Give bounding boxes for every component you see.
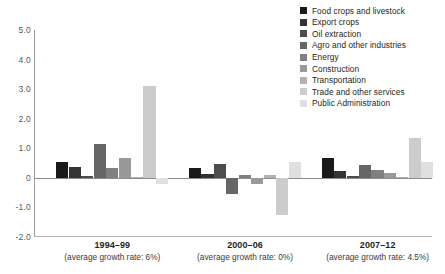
- legend-label: Agro and other industries: [312, 41, 406, 49]
- category-period: 1994–99: [42, 240, 182, 250]
- legend-label: Trade and other services: [312, 88, 405, 96]
- legend-item-construction[interactable]: Construction: [300, 63, 445, 75]
- bar[interactable]: [131, 177, 143, 178]
- legend-swatch-icon: [300, 77, 307, 84]
- bar[interactable]: [156, 178, 168, 184]
- grouped-bar-chart: 5.04.03.02.01.00-1.0-2.0 1994–99(average…: [0, 0, 445, 274]
- category-growth-rate: (average growth rate: 6%): [42, 252, 182, 262]
- legend-item-agro-and-other-industries[interactable]: Agro and other industries: [300, 40, 445, 52]
- y-axis-tick-5.0: 5.0: [1, 25, 31, 35]
- legend-swatch-icon: [300, 42, 307, 49]
- category-period: 2007–12: [308, 240, 445, 250]
- legend-item-food-crops-and-livestock[interactable]: Food crops and livestock: [300, 5, 445, 17]
- category-label-200006: 2000–06(average growth rate: 0%): [175, 240, 315, 262]
- legend-item-export-crops[interactable]: Export crops: [300, 17, 445, 29]
- legend-swatch-icon: [300, 88, 307, 95]
- y-axis-tick-n2.0: -2.0: [1, 232, 31, 242]
- legend-label: Export crops: [312, 18, 359, 26]
- bar[interactable]: [201, 174, 213, 178]
- legend-label: Energy: [312, 53, 339, 61]
- bar[interactable]: [56, 162, 68, 178]
- bar[interactable]: [251, 178, 263, 184]
- bar[interactable]: [396, 177, 408, 178]
- legend-swatch-icon: [300, 100, 307, 107]
- legend-item-public-administration[interactable]: Public Administration: [300, 98, 445, 110]
- bar[interactable]: [334, 171, 346, 178]
- legend-swatch-icon: [300, 19, 307, 26]
- bar[interactable]: [94, 144, 106, 178]
- bar[interactable]: [322, 158, 334, 178]
- bar[interactable]: [359, 165, 371, 177]
- bar[interactable]: [69, 167, 81, 178]
- bar[interactable]: [119, 158, 131, 178]
- chart-legend: Food crops and livestockExport cropsOil …: [300, 5, 445, 109]
- category-growth-rate: (average growth rate: 0%): [175, 252, 315, 262]
- legend-item-trade-and-other-services[interactable]: Trade and other services: [300, 86, 445, 98]
- y-axis-tick-labels: 5.04.03.02.01.00-1.0-2.0: [0, 30, 31, 237]
- y-axis-tick-0: 0: [1, 173, 31, 183]
- category-label-199499: 1994–99(average growth rate: 6%): [42, 240, 182, 262]
- category-growth-rate: (average growth rate: 4.5%): [308, 252, 445, 262]
- bar[interactable]: [289, 162, 301, 177]
- bar-group-200006: [189, 30, 301, 237]
- bar[interactable]: [189, 168, 201, 178]
- legend-swatch-icon: [300, 54, 307, 61]
- legend-label: Construction: [312, 65, 359, 73]
- bar[interactable]: [239, 175, 251, 177]
- legend-swatch-icon: [300, 7, 307, 14]
- bar-group-199499: [56, 30, 168, 237]
- bar[interactable]: [347, 176, 359, 177]
- legend-label: Transportation: [312, 76, 366, 84]
- bar[interactable]: [81, 176, 93, 178]
- legend-swatch-icon: [300, 65, 307, 72]
- legend-item-oil-extraction[interactable]: Oil extraction: [300, 28, 445, 40]
- bar[interactable]: [214, 164, 226, 178]
- legend-item-energy[interactable]: Energy: [300, 51, 445, 63]
- bar[interactable]: [276, 178, 288, 215]
- legend-item-transportation[interactable]: Transportation: [300, 75, 445, 87]
- bar[interactable]: [226, 178, 238, 194]
- bar[interactable]: [143, 86, 155, 178]
- y-axis-tick-2.0: 2.0: [1, 114, 31, 124]
- legend-label: Food crops and livestock: [312, 7, 405, 15]
- category-period: 2000–06: [175, 240, 315, 250]
- legend-swatch-icon: [300, 30, 307, 37]
- bar[interactable]: [409, 138, 421, 178]
- bar[interactable]: [384, 173, 396, 177]
- category-label-200712: 2007–12(average growth rate: 4.5%): [308, 240, 445, 262]
- y-axis-tick-1.0: 1.0: [1, 143, 31, 153]
- y-axis-line: [34, 30, 35, 237]
- y-axis-tick-4.0: 4.0: [1, 55, 31, 65]
- legend-label: Oil extraction: [312, 30, 361, 38]
- legend-label: Public Administration: [312, 99, 390, 107]
- bar[interactable]: [106, 168, 118, 178]
- y-axis-tick-3.0: 3.0: [1, 84, 31, 94]
- bar[interactable]: [371, 170, 383, 178]
- y-axis-tick-n1.0: -1.0: [1, 202, 31, 212]
- bar[interactable]: [264, 175, 276, 177]
- category-labels: 1994–99(average growth rate: 6%)2000–06(…: [34, 240, 432, 274]
- bar[interactable]: [421, 162, 433, 177]
